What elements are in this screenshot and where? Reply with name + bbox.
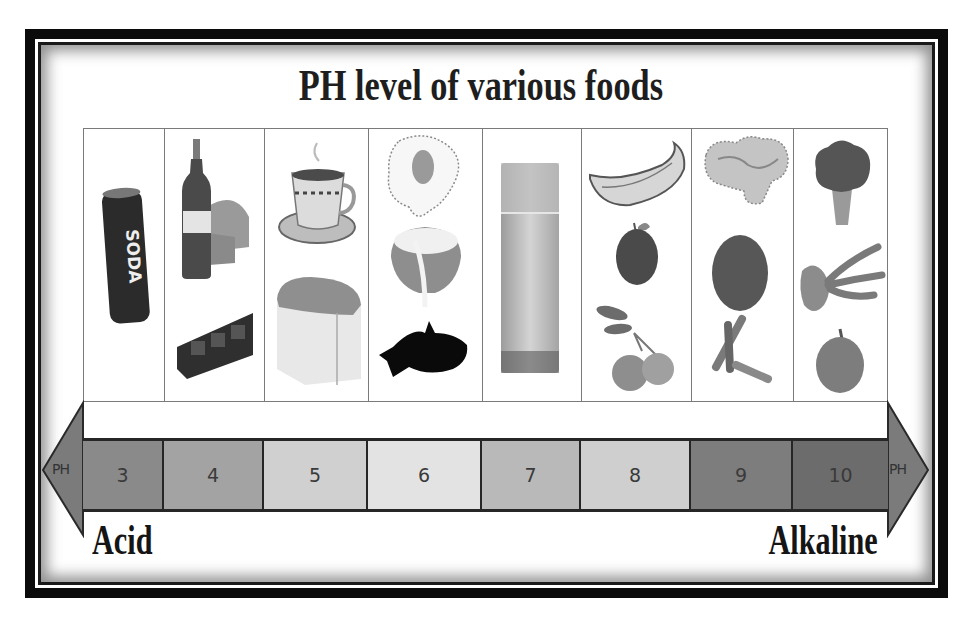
ph-segment: 3 [83, 441, 164, 509]
ph-segment: 10 [793, 441, 888, 509]
food-grid: SODA [83, 128, 888, 402]
food-column-ph-9 [692, 129, 794, 401]
candy-tray-icon [177, 313, 253, 379]
ph-value: 6 [418, 464, 430, 486]
apple-icon [616, 223, 658, 285]
cinnamon-sticks-icon [716, 319, 768, 379]
coffee-cup-icon [279, 143, 355, 243]
ph-value: 10 [828, 464, 852, 486]
scale-top-strip [83, 402, 888, 440]
food-column-ph-8 [582, 129, 692, 401]
broccoli-icon [815, 140, 870, 225]
food-column-ph-7 [483, 129, 582, 401]
food-column-ph-6 [369, 129, 483, 401]
ph-segment: 9 [691, 441, 793, 509]
ph-segment: 6 [368, 441, 482, 509]
ph-segment: 7 [482, 441, 581, 509]
right-arrow-ph-label: PH [889, 461, 906, 477]
bread-loaf-icon [277, 277, 361, 385]
ph-value: 4 [207, 464, 219, 486]
ph-segment: 8 [581, 441, 691, 509]
fish-icon [379, 321, 467, 377]
wine-bottle-icon [182, 139, 211, 279]
acid-label: Acid [92, 516, 152, 564]
oranges-icon [595, 303, 674, 391]
glass-of-milk-icon [483, 129, 582, 403]
ph-value: 8 [629, 464, 641, 486]
left-arrow-ph-label: PH [52, 461, 69, 477]
ph-scale-bar: 3 4 5 6 7 8 9 10 [83, 438, 888, 512]
ph-segment: 4 [164, 441, 264, 509]
ph-value: 9 [735, 464, 747, 486]
food-column-ph-4 [165, 129, 265, 401]
seaweed-icon [800, 247, 882, 311]
cheese-wedge-icon [207, 200, 249, 265]
ph-value: 7 [524, 464, 536, 486]
melon-icon [712, 235, 768, 311]
coconut-milk-icon [391, 227, 461, 307]
food-column-ph-5 [265, 129, 369, 401]
food-column-ph-3: SODA [84, 129, 165, 401]
food-column-ph-10 [794, 129, 889, 401]
alkaline-label: Alkaline [769, 516, 878, 564]
soda-can-icon: SODA [84, 129, 165, 403]
soda-label: SODA [122, 229, 146, 285]
ph-value: 5 [309, 464, 321, 486]
fried-egg-icon [388, 136, 458, 216]
ph-segment: 5 [264, 441, 368, 509]
onion-icon [816, 329, 864, 393]
diagram-title: PH level of various foods [103, 60, 858, 111]
banana-icon [590, 143, 684, 205]
ph-value: 3 [116, 464, 128, 486]
ginger-root-icon [705, 137, 788, 204]
